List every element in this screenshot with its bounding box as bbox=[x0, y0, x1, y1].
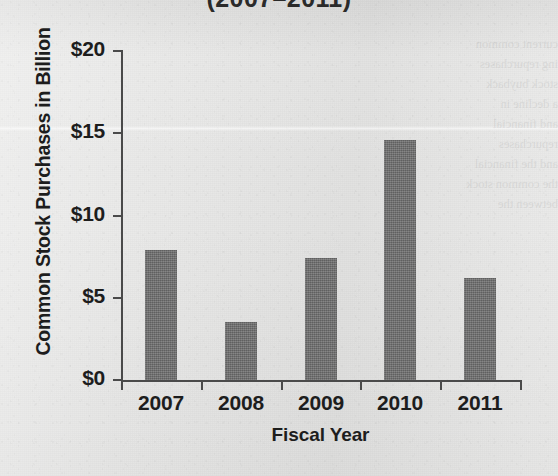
bar-2008 bbox=[225, 322, 257, 380]
y-axis-tick-label: $0 bbox=[43, 366, 105, 390]
x-axis-line bbox=[121, 380, 520, 382]
x-axis-label-2007: 2007 bbox=[121, 391, 201, 415]
x-axis-tick bbox=[360, 380, 362, 390]
x-axis-label-2008: 2008 bbox=[201, 391, 281, 415]
x-axis-label-2009: 2009 bbox=[281, 391, 361, 415]
y-axis-tick bbox=[113, 50, 123, 52]
y-axis-tick bbox=[113, 297, 123, 299]
x-axis-title: Fiscal Year bbox=[121, 424, 520, 446]
y-axis-line bbox=[121, 51, 123, 382]
y-axis-title: Common Stock Purchases in Billion bbox=[32, 17, 55, 367]
bar-chart: $0$5$10$15$20 20072008200920102011 Fisca… bbox=[0, 0, 558, 476]
x-axis-label-2011: 2011 bbox=[440, 391, 520, 415]
x-axis-tick bbox=[440, 380, 442, 390]
x-axis-label-2010: 2010 bbox=[360, 391, 440, 415]
x-axis-tick bbox=[281, 380, 283, 390]
y-axis-tick bbox=[113, 215, 123, 217]
bar-2009 bbox=[305, 258, 337, 380]
bar-2011 bbox=[464, 278, 496, 380]
bar-2010 bbox=[384, 140, 416, 380]
x-axis-tick bbox=[520, 380, 522, 390]
y-axis-tick bbox=[113, 132, 123, 134]
bar-2007 bbox=[145, 250, 177, 380]
x-axis-tick bbox=[201, 380, 203, 390]
x-axis-tick bbox=[121, 380, 123, 390]
